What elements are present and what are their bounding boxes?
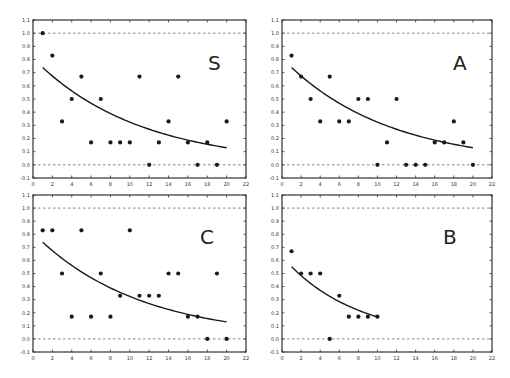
data-point [394,97,398,101]
data-point [423,163,427,167]
y-tick-label: 0.0 [271,162,279,168]
x-tick-label: 16 [185,355,191,361]
y-tick-label: 1.0 [271,30,279,36]
x-tick-label: 12 [146,181,152,187]
panel-s: -0.10.00.10.20.30.40.50.60.70.80.91.01.1… [20,17,249,187]
panel-label: A [453,51,467,75]
y-tick-label: 0.5 [271,270,279,276]
data-point [147,294,151,298]
data-point [89,315,93,319]
data-point [318,271,322,275]
data-point [299,271,303,275]
data-point [328,337,332,341]
x-tick-label: 10 [127,355,133,361]
x-tick-label: 0 [280,355,283,361]
data-point [347,315,351,319]
y-tick-label: 0.5 [22,270,30,276]
data-point [452,119,456,123]
data-point [356,97,360,101]
x-tick-label: 6 [338,355,341,361]
y-tick-label: 0.5 [22,96,30,102]
y-tick-label: 0.6 [22,257,30,263]
x-tick-label: 16 [432,355,438,361]
data-point [356,315,360,319]
x-tick-label: 2 [299,181,302,187]
x-tick-label: 18 [451,181,457,187]
x-tick-label: 8 [357,181,360,187]
data-point [225,119,229,123]
data-point [215,163,219,167]
data-point [50,228,54,232]
data-point [442,140,446,144]
data-point [205,337,209,341]
data-point [176,271,180,275]
y-tick-label: -0.1 [269,175,279,181]
y-tick-label: 0.1 [22,148,30,154]
data-point [318,119,322,123]
data-point [166,119,170,123]
data-point [157,294,161,298]
data-point [461,140,465,144]
data-point [79,228,83,232]
data-point [70,315,74,319]
data-point [147,163,151,167]
x-tick-label: 2 [299,355,302,361]
y-tick-label: 0.0 [271,336,279,342]
x-tick-label: 0 [31,355,34,361]
data-point [70,97,74,101]
x-tick-label: 2 [51,181,54,187]
data-point [41,228,45,232]
data-point [225,337,229,341]
data-point [176,75,180,79]
x-tick-label: 2 [51,355,54,361]
y-tick-label: 1.1 [271,192,279,198]
data-point [347,119,351,123]
x-tick-label: 4 [319,181,322,187]
data-point [471,163,475,167]
x-tick-label: 16 [185,181,191,187]
y-tick-label: 0.4 [271,283,279,289]
x-tick-label: 4 [319,355,322,361]
x-tick-label: 14 [412,355,418,361]
x-tick-label: 0 [280,181,283,187]
y-tick-label: 0.1 [22,323,30,329]
data-point [60,271,64,275]
panel-a: -0.10.00.10.20.30.40.50.60.70.80.91.01.1… [269,17,495,187]
data-point [366,315,370,319]
x-tick-label: 22 [243,181,249,187]
y-tick-label: 0.3 [22,122,30,128]
plot-frame [282,195,492,352]
x-tick-label: 22 [489,355,495,361]
small-multiples-scatter-chart: -0.10.00.10.20.30.40.50.60.70.80.91.01.1… [0,0,510,378]
y-tick-label: 0.2 [22,135,30,141]
x-tick-label: 8 [109,355,112,361]
data-point [414,163,418,167]
y-tick-label: 0.2 [22,310,30,316]
data-point [328,75,332,79]
y-tick-label: 0.3 [271,122,279,128]
plot-frame [282,20,492,178]
data-point [289,53,293,57]
y-tick-label: -0.1 [20,175,30,181]
x-tick-label: 20 [470,355,476,361]
data-point [195,163,199,167]
x-tick-label: 14 [412,181,418,187]
data-point [404,163,408,167]
data-point [215,271,219,275]
x-tick-label: 10 [127,181,133,187]
x-tick-label: 0 [31,181,34,187]
data-point [108,315,112,319]
data-point [337,119,341,123]
y-tick-label: 0.7 [271,69,279,75]
x-tick-label: 20 [223,181,229,187]
data-point [89,140,93,144]
data-point [186,315,190,319]
y-tick-label: 1.0 [271,205,279,211]
x-tick-label: 10 [374,181,380,187]
x-tick-label: 6 [338,181,341,187]
x-tick-label: 8 [357,355,360,361]
data-point [79,75,83,79]
y-tick-label: 0.2 [271,135,279,141]
y-tick-label: 0.0 [22,336,30,342]
y-tick-label: 0.9 [271,43,279,49]
